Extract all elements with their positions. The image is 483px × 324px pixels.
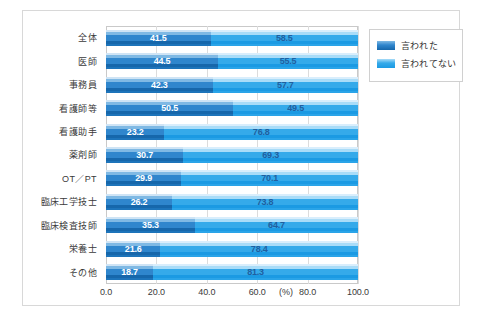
bar-value-label: 49.5	[287, 103, 304, 113]
bar-row: 50.549.5	[106, 100, 358, 116]
bar-segment-said[interactable]: 44.5	[106, 53, 218, 69]
bar-value-label: 55.5	[280, 56, 297, 66]
x-axis: 0.020.040.060.080.0100.0	[106, 285, 358, 301]
bar-segment-said[interactable]: 29.9	[106, 170, 181, 186]
bar-value-label: 26.2	[131, 197, 148, 207]
bar-rows: 41.558.544.555.542.357.750.549.523.276.8…	[106, 26, 358, 284]
x-axis-tick: 40.0	[198, 287, 215, 297]
category-label: 事務員	[23, 77, 103, 93]
category-label: 栄養士	[23, 241, 103, 257]
bar-value-label: 42.3	[151, 80, 168, 90]
category-label: 臨床検査技師	[23, 217, 103, 233]
bar-row: 35.364.7	[106, 217, 358, 233]
bar-row: 29.970.1	[106, 170, 358, 186]
bar-segment-said[interactable]: 50.5	[106, 100, 233, 116]
bar-value-label: 44.5	[154, 56, 171, 66]
bar-segment-said[interactable]: 41.5	[106, 30, 211, 46]
bar-segment-not-said[interactable]: 64.7	[195, 217, 358, 233]
category-label: その他	[23, 264, 103, 280]
legend-swatch-not-said	[377, 59, 395, 68]
bar-segment-not-said[interactable]: 81.3	[153, 264, 358, 280]
legend-item-not-said[interactable]: 言われてない	[377, 57, 455, 70]
x-axis-tick: 60.0	[249, 287, 266, 297]
legend-label-said: 言われた	[401, 39, 438, 52]
bar-value-label: 78.4	[251, 244, 268, 254]
bar-row: 42.357.7	[106, 77, 358, 93]
category-label: OT／PT	[23, 170, 103, 186]
bar-value-label: 73.8	[257, 197, 274, 207]
category-label: 看護助手	[23, 124, 103, 140]
bar-segment-said[interactable]: 35.3	[106, 217, 195, 233]
bar-segment-said[interactable]: 42.3	[106, 77, 213, 93]
bar-value-label: 41.5	[150, 33, 167, 43]
bar-value-label: 64.7	[268, 220, 285, 230]
bar-segment-said[interactable]: 26.2	[106, 194, 172, 210]
gridline	[358, 26, 359, 284]
bar-segment-not-said[interactable]: 69.3	[183, 147, 358, 163]
bar-row: 41.558.5	[106, 30, 358, 46]
category-axis: 全体医師事務員看護師等看護助手薬剤師OT／PT臨床工学技士臨床検査技師栄養士その…	[23, 26, 103, 284]
bar-segment-not-said[interactable]: 70.1	[181, 170, 358, 186]
x-axis-tick: 100.0	[347, 287, 369, 297]
legend-item-said[interactable]: 言われた	[377, 39, 455, 52]
bar-value-label: 35.3	[142, 220, 159, 230]
bar-value-label: 50.5	[161, 103, 178, 113]
chart-frame: 全体医師事務員看護師等看護助手薬剤師OT／PT臨床工学技士臨床検査技師栄養士その…	[22, 10, 460, 306]
x-axis-tick: 0.0	[100, 287, 112, 297]
bar-row: 21.678.4	[106, 241, 358, 257]
bar-value-label: 21.6	[125, 244, 142, 254]
bar-segment-not-said[interactable]: 55.5	[218, 53, 358, 69]
bar-value-label: 57.7	[277, 80, 294, 90]
bar-segment-said[interactable]: 18.7	[106, 264, 153, 280]
bar-value-label: 81.3	[247, 267, 264, 277]
category-label: 医師	[23, 53, 103, 69]
bar-segment-not-said[interactable]: 57.7	[213, 77, 358, 93]
x-axis-tick: 80.0	[299, 287, 316, 297]
bar-value-label: 76.8	[253, 127, 270, 137]
bar-row: 44.555.5	[106, 53, 358, 69]
bar-segment-said[interactable]: 30.7	[106, 147, 183, 163]
bar-segment-not-said[interactable]: 58.5	[211, 30, 358, 46]
bar-segment-said[interactable]: 21.6	[106, 241, 160, 257]
legend: 言われた 言われてない	[369, 29, 463, 82]
bar-segment-not-said[interactable]: 76.8	[164, 124, 358, 140]
bar-value-label: 30.7	[136, 150, 153, 160]
bar-value-label: 70.1	[261, 173, 278, 183]
bar-segment-said[interactable]: 23.2	[106, 124, 164, 140]
bar-row: 23.276.8	[106, 124, 358, 140]
bar-value-label: 69.3	[262, 150, 279, 160]
category-label: 看護師等	[23, 100, 103, 116]
bar-value-label: 23.2	[127, 127, 144, 137]
plot-area: 41.558.544.555.542.357.750.549.523.276.8…	[106, 26, 358, 284]
x-axis-tick: 20.0	[148, 287, 165, 297]
category-label: 全体	[23, 30, 103, 46]
bar-segment-not-said[interactable]: 73.8	[172, 194, 358, 210]
category-label: 薬剤師	[23, 147, 103, 163]
bar-value-label: 29.9	[135, 173, 152, 183]
legend-swatch-said	[377, 41, 395, 50]
legend-label-not-said: 言われてない	[401, 57, 456, 70]
x-axis-unit-label: (%)	[279, 287, 293, 297]
category-label: 臨床工学技士	[23, 194, 103, 210]
bar-value-label: 58.5	[276, 33, 293, 43]
bar-row: 30.769.3	[106, 147, 358, 163]
bar-segment-not-said[interactable]: 78.4	[160, 241, 358, 257]
bar-segment-not-said[interactable]: 49.5	[233, 100, 358, 116]
bar-row: 26.273.8	[106, 194, 358, 210]
bar-value-label: 18.7	[121, 267, 138, 277]
bar-row: 18.781.3	[106, 264, 358, 280]
